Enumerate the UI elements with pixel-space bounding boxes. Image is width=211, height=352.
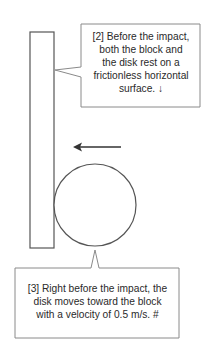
callout-line: [2] Before the impact, xyxy=(82,30,200,43)
callout-line: with a velocity of 0.5 m/s. # xyxy=(16,308,179,321)
callout-line: surface. ↓ xyxy=(82,82,200,95)
callout-line: disk moves toward the block xyxy=(16,295,179,308)
callout-line: the disk rest on a xyxy=(82,56,200,69)
bottom-callout-text: [3] Right before the impact, the disk mo… xyxy=(16,282,179,321)
callout-line: [3] Right before the impact, the xyxy=(16,282,179,295)
callout-line: both the block and xyxy=(82,43,200,56)
block xyxy=(30,32,54,248)
disk xyxy=(54,164,136,246)
top-callout-text: [2] Before the impact, both the block an… xyxy=(82,30,200,95)
callout-line: frictionless horizontal xyxy=(82,69,200,82)
